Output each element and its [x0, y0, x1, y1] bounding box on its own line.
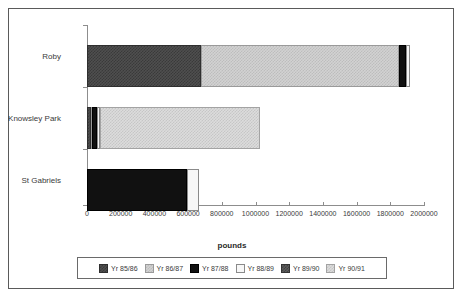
y-axis-tick: [83, 149, 88, 150]
bar-segment-yr-88-89[interactable]: [406, 45, 410, 87]
legend-swatch-icon: [326, 264, 335, 273]
bar-segment-yr-87-88[interactable]: [399, 45, 406, 87]
category-label-roby: Roby: [42, 52, 61, 61]
category-label-knowsley-park: Knowsley Park: [8, 114, 61, 123]
x-axis-tick-label: 2000000: [401, 209, 447, 219]
x-axis-tick: [256, 202, 257, 206]
legend-item-yr-85-86[interactable]: Yr 85/86: [99, 264, 137, 273]
legend-item-yr-88-89[interactable]: Yr 88/89: [236, 264, 274, 273]
bar-segment-yr-85-86[interactable]: [87, 45, 201, 87]
x-axis-tick: [323, 202, 324, 206]
legend-label: Yr 88/89: [248, 265, 274, 272]
legend-label: Yr 89/90: [293, 265, 319, 272]
bar-segment-yr-87-88[interactable]: [87, 169, 187, 211]
legend-swatch-icon: [145, 264, 154, 273]
y-axis-tick: [83, 87, 88, 88]
chart-frame: RobyKnowsley ParkSt Gabriels 02000004000…: [8, 8, 454, 289]
legend-label: Yr 86/87: [157, 265, 183, 272]
legend-item-yr-90-91[interactable]: Yr 90/91: [326, 264, 364, 273]
bar-segment-yr-86-87[interactable]: [201, 45, 399, 87]
legend-label: Yr 87/88: [202, 265, 228, 272]
x-axis-tick: [424, 202, 425, 206]
legend-swatch-icon: [236, 264, 245, 273]
x-axis-tick: [289, 202, 290, 206]
legend-label: Yr 85/86: [111, 265, 137, 272]
category-label-st-gabriels: St Gabriels: [21, 176, 61, 185]
legend-item-yr-87-88[interactable]: Yr 87/88: [190, 264, 228, 273]
x-axis-tick: [222, 202, 223, 206]
x-axis-tick: [390, 202, 391, 206]
bar-segment-yr-88-89[interactable]: [187, 169, 199, 211]
legend-swatch-icon: [99, 264, 108, 273]
legend-item-yr-89-90[interactable]: Yr 89/90: [281, 264, 319, 273]
legend-swatch-icon: [281, 264, 290, 273]
legend-item-yr-86-87[interactable]: Yr 86/87: [145, 264, 183, 273]
x-axis-tick: [357, 202, 358, 206]
chart-legend: Yr 85/86Yr 86/87Yr 87/88Yr 88/89Yr 89/90…: [77, 257, 387, 279]
x-axis-title: pounds: [9, 241, 455, 250]
y-axis-tick: [83, 25, 88, 26]
legend-swatch-icon: [190, 264, 199, 273]
clipped-caption: [0, 0, 464, 8]
bar-segment-yr-90-91[interactable]: [100, 107, 260, 149]
legend-label: Yr 90/91: [338, 265, 364, 272]
